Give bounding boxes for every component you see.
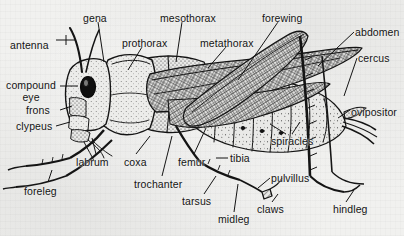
leader-trochanter (162, 136, 172, 176)
label-foreleg: foreleg (24, 186, 57, 198)
hind-claw (344, 185, 360, 192)
leader-coxa (136, 136, 150, 154)
mid-tibia (200, 162, 240, 180)
label-spiracles: spiracles (271, 136, 313, 148)
mid-pulvillus (262, 189, 272, 199)
label-hindleg: hindleg (333, 204, 368, 216)
leader-midleg (234, 184, 238, 212)
frons-plate (70, 98, 86, 117)
label-labrum: labrum (76, 157, 109, 169)
leader-clypeus (56, 122, 70, 126)
label-forewing: forewing (262, 13, 303, 25)
label-prothorax: prothorax (122, 38, 167, 50)
mid-tarsus (240, 180, 262, 192)
label-gena: gena (83, 13, 107, 25)
leader-cercus (344, 58, 357, 96)
label-trochanter: trochanter (134, 179, 182, 191)
leader-claws (272, 194, 278, 202)
hind-tarsus-far (332, 172, 364, 184)
clypeus-plate (69, 116, 89, 131)
labrum-plate (71, 130, 90, 142)
label-clypeus: clypeus (16, 121, 52, 133)
label-tibia: tibia (230, 153, 250, 165)
eye-highlight (83, 79, 88, 86)
fore-tarsus (8, 166, 26, 170)
fore-tibia (26, 158, 70, 166)
label-midleg: midleg (218, 214, 250, 226)
label-abdomen: abdomen (355, 27, 399, 39)
label-tarsus: tarsus (182, 196, 211, 208)
label-compound-eye: compound eye (2, 80, 60, 103)
label-cercus: cercus (358, 53, 390, 65)
label-antenna: antenna (10, 40, 49, 52)
label-pulvillus: pulvillus (271, 173, 309, 185)
leader-gena (98, 22, 104, 62)
anatomy-figure: antenna gena prothorax mesothorax metath… (0, 0, 404, 236)
leader-tarsus (204, 176, 216, 194)
leader-pulvillus (258, 178, 270, 188)
label-coxa: coxa (124, 157, 147, 169)
ovipositor-lower (342, 126, 374, 144)
label-claws: claws (257, 204, 284, 216)
hind-tarsus (310, 176, 344, 192)
label-mesothorax: mesothorax (160, 13, 216, 25)
fore-tarsus-far (3, 187, 16, 189)
leader-femur (194, 128, 206, 154)
label-ovipositor: ovipositor (351, 107, 397, 119)
label-metathorax: metathorax (200, 38, 254, 50)
label-femur: femur (178, 157, 205, 169)
label-frons: frons (26, 105, 50, 117)
ovipositor-mid (343, 122, 377, 137)
